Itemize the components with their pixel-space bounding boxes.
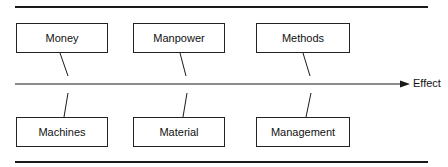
cause-box-material: Material	[133, 117, 225, 147]
cause-box-machines: Machines	[16, 117, 108, 147]
cause-label: Methods	[282, 32, 324, 44]
cause-label: Management	[271, 126, 335, 138]
cause-box-money: Money	[16, 23, 108, 53]
cause-label: Money	[45, 32, 78, 44]
cause-box-manpower: Manpower	[133, 23, 225, 53]
cause-label: Manpower	[153, 32, 204, 44]
cause-box-methods: Methods	[256, 23, 350, 53]
cause-label: Machines	[38, 126, 85, 138]
effect-label: Effect	[413, 77, 441, 89]
cause-label: Material	[159, 126, 198, 138]
cause-box-management: Management	[256, 117, 350, 147]
arrowhead-icon	[400, 81, 410, 88]
